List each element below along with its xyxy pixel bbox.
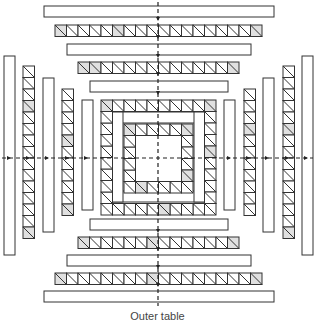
arrow-icon — [156, 54, 160, 58]
arrow-icon — [156, 229, 160, 233]
plain-bar-horizontal — [44, 6, 274, 17]
plain-bar-vertical — [224, 100, 235, 210]
plain-bar-horizontal — [44, 291, 274, 302]
center-band — [112, 112, 123, 202]
arrow-icon — [156, 265, 160, 269]
center-band — [194, 112, 205, 202]
plain-bar-horizontal — [67, 44, 251, 55]
arrow-icon — [156, 91, 160, 95]
plain-bar-vertical — [263, 78, 274, 232]
plain-bar-vertical — [43, 78, 54, 232]
arrow-icon — [156, 17, 160, 21]
plain-bar-horizontal — [90, 219, 228, 230]
plain-bar-vertical — [82, 100, 93, 210]
plain-bar-horizontal — [90, 81, 228, 92]
figure-caption: Outer table — [0, 310, 315, 322]
plain-bar-vertical — [302, 56, 313, 255]
plain-bar-horizontal — [67, 255, 251, 266]
plain-bar-vertical — [4, 56, 15, 255]
